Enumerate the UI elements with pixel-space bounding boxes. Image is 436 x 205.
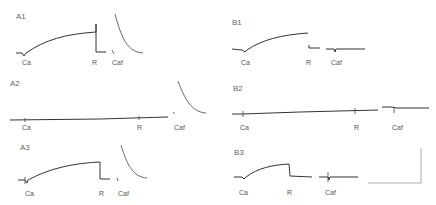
- marker-r: R: [99, 190, 104, 197]
- marker-ca: Ca: [22, 59, 31, 66]
- panel-label-b1: B1: [232, 18, 242, 27]
- marker-caf: Caf: [331, 59, 342, 66]
- panel-label-a1: A1: [16, 12, 26, 21]
- marker-ca: Ca: [240, 124, 249, 131]
- marker-caf: Caf: [174, 124, 185, 131]
- scale-bar: [368, 148, 421, 183]
- marker-caf: Caf: [118, 190, 129, 197]
- marker-r: R: [137, 124, 142, 131]
- panel-label-b3: B3: [234, 148, 244, 157]
- figure: A1 Ca R Caf A2 Ca R Caf A3 Ca R Caf B1 C…: [0, 0, 436, 205]
- marker-r: R: [354, 124, 359, 131]
- marker-r: R: [92, 59, 97, 66]
- panel-a2: A2 Ca R Caf: [10, 79, 206, 131]
- marker-ca: Ca: [239, 189, 248, 196]
- marker-caf: Caf: [392, 124, 403, 131]
- panel-a3: A3 Ca R Caf: [18, 143, 147, 197]
- panel-label-a3: A3: [20, 143, 30, 152]
- marker-caf: Caf: [112, 59, 123, 66]
- panel-b1: B1 Ca R Caf: [232, 18, 365, 66]
- panel-b2: B2 Ca R Caf: [232, 84, 429, 131]
- panel-label-b2: B2: [233, 84, 243, 93]
- panel-a1: A1 Ca R Caf: [16, 12, 143, 66]
- marker-r: R: [287, 189, 292, 196]
- marker-ca: Ca: [241, 59, 250, 66]
- marker-ca: Ca: [22, 124, 31, 131]
- marker-r: R: [306, 59, 311, 66]
- panel-b3: B3 Ca R Caf: [234, 148, 358, 196]
- marker-ca: Ca: [25, 190, 34, 197]
- panel-label-a2: A2: [10, 79, 20, 88]
- marker-caf: Caf: [325, 189, 336, 196]
